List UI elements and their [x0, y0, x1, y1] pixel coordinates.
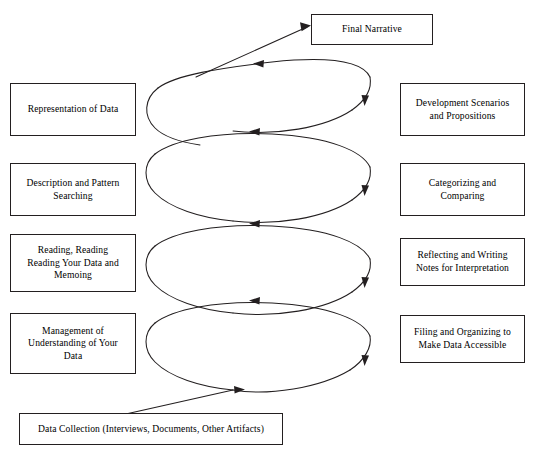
box-reading-line3: Memoing: [27, 269, 119, 282]
box-reflecting-line2: Notes for Interpretation: [416, 262, 509, 275]
arrowhead-right-start: [234, 386, 245, 394]
arrowhead-left-loop4: [253, 60, 264, 68]
arrowhead-left-loop3: [249, 128, 260, 136]
box-filing-line2: Make Data Accessible: [414, 339, 511, 352]
spiral-graphic: [0, 0, 533, 454]
spiral-loop3-bottom-right: [233, 200, 352, 222]
box-description-line2: Searching: [27, 190, 120, 203]
box-filing-line1: Filing and Organizing to: [414, 326, 511, 339]
box-representation-of-data-label: Representation of Data: [28, 103, 119, 116]
box-management-of-understanding[interactable]: Management of Understanding of Your Data: [10, 313, 136, 374]
spiral-loop4-right: [352, 77, 370, 110]
spiral-exit-segment: [196, 27, 307, 77]
box-management-line2: Understanding of Your: [28, 337, 118, 350]
spiral-loop4-left: [147, 88, 233, 135]
spiral-loop4-left-arc: [147, 88, 200, 145]
box-reflecting-and-writing-notes[interactable]: Reflecting and Writing Notes for Interpr…: [400, 238, 525, 286]
spiral-loop4-top: [158, 60, 370, 88]
arrowhead-up-loop1: [362, 355, 370, 366]
box-management-line3: Data: [28, 350, 118, 363]
box-categorizing-and-comparing[interactable]: Categorizing and Comparing: [400, 163, 525, 216]
box-reading-and-memoing[interactable]: Reading, Reading Reading Your Data and M…: [10, 234, 136, 292]
spiral-loop2-right: [352, 259, 370, 292]
box-data-collection[interactable]: Data Collection (Interviews, Documents, …: [19, 413, 283, 445]
box-categorizing-line1: Categorizing and: [429, 177, 496, 190]
spiral-loop3-top: [155, 133, 370, 167]
box-development-line2: and Propositions: [416, 110, 509, 123]
box-development-line1: Development Scenarios: [416, 97, 509, 110]
arrowhead-final-narrative: [300, 22, 311, 31]
box-categorizing-line2: Comparing: [429, 190, 496, 203]
spiral-loop1-top: [155, 302, 370, 336]
spiral-loop3-left: [146, 154, 233, 221]
spiral-loop1-right: [350, 336, 370, 370]
box-description-line1: Description and Pattern: [27, 177, 120, 190]
box-reading-line2: Reading Your Data and: [27, 257, 119, 270]
box-description-and-pattern-searching[interactable]: Description and Pattern Searching: [10, 163, 136, 216]
spiral-loop1-bottom-right: [233, 370, 350, 392]
box-final-narrative-label: Final Narrative: [342, 23, 402, 36]
spiral-arrowheads: [234, 22, 369, 393]
box-reading-line1: Reading, Reading: [27, 244, 119, 257]
box-reflecting-line1: Reflecting and Writing: [416, 249, 509, 262]
spiral-loop2-top: [155, 225, 370, 259]
spiral-loop1-left: [146, 323, 233, 390]
box-filing-and-organizing[interactable]: Filing and Organizing to Make Data Acces…: [400, 315, 525, 363]
spiral-loop4-bottom-right: [233, 110, 352, 132]
box-representation-of-data[interactable]: Representation of Data: [10, 83, 136, 136]
diagram-canvas: Final Narrative Representation of Data D…: [0, 0, 533, 454]
box-data-collection-label: Data Collection (Interviews, Documents, …: [38, 423, 264, 436]
box-management-line1: Management of: [28, 325, 118, 338]
arrowhead-left-loop1: [249, 297, 260, 305]
spiral-loop3-right: [352, 167, 370, 200]
arrowhead-left-loop2: [249, 220, 260, 228]
spiral-loop2-left: [146, 246, 233, 313]
spiral-loop2-bottom-right: [233, 292, 352, 314]
box-development-scenarios[interactable]: Development Scenarios and Propositions: [400, 83, 525, 136]
box-final-narrative[interactable]: Final Narrative: [311, 14, 433, 45]
